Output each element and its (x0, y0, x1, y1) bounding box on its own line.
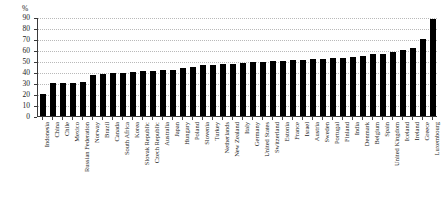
x-axis-tick-label: Italy (244, 122, 251, 134)
x-axis-tick-mark (402, 117, 403, 120)
y-axis-tick-label: 70 (23, 36, 31, 44)
x-axis-tick-label: Germany (254, 122, 261, 146)
x-axis-tick-label: Netherlands (224, 122, 231, 153)
x-axis-tick-label: Indonesia (44, 122, 51, 147)
x-axis-tick-label: Chile (64, 122, 71, 136)
bar (130, 72, 137, 116)
x-axis-tick-label: Belgium (374, 122, 381, 144)
x-axis-tick-mark (252, 117, 253, 120)
x-axis-tick-label: Iceland (404, 122, 411, 141)
bar (250, 62, 257, 116)
x-axis-tick-mark (162, 117, 163, 120)
x-axis-tick-label: Poland (194, 122, 201, 140)
bar (120, 73, 127, 116)
bar (270, 61, 277, 116)
x-axis-tick-mark (362, 117, 363, 120)
x-axis-tick-label: Estonia (284, 122, 291, 142)
x-axis-tick-label: Hungary (184, 122, 191, 145)
bar (410, 48, 417, 116)
y-axis-tick-label: 10 (23, 102, 31, 110)
x-axis-tick-mark (382, 117, 383, 120)
x-axis-tick-mark (272, 117, 273, 120)
x-axis-tick-mark (72, 117, 73, 120)
x-axis-tick-mark (342, 117, 343, 120)
bar (400, 50, 407, 116)
x-axis-tick-mark (312, 117, 313, 120)
x-axis-tick-label: Brazil (104, 122, 111, 138)
bar (230, 64, 237, 116)
x-axis-tick-mark (262, 117, 263, 120)
x-axis-tick-mark (132, 117, 133, 120)
y-axis-tick-label: 20 (23, 91, 31, 99)
x-axis-tick-mark (332, 117, 333, 120)
x-axis-tick-label: Austria (314, 122, 321, 141)
y-axis-tick-label: 50 (23, 58, 31, 66)
bar (420, 39, 427, 116)
plot-area (37, 18, 437, 117)
bar (200, 65, 207, 116)
bar (430, 19, 437, 116)
bar (240, 63, 247, 116)
bar (180, 68, 187, 116)
y-axis-tick-label: 90 (23, 14, 31, 22)
y-axis-tick-label: 0 (26, 113, 30, 121)
bar (380, 54, 387, 116)
x-axis-tick-label: Slovenia (204, 122, 211, 145)
x-axis-tick-label: Spain (384, 122, 391, 137)
x-axis-tick-mark (222, 117, 223, 120)
bar (140, 71, 147, 116)
bar (70, 83, 77, 116)
x-axis-tick-mark (82, 117, 83, 120)
x-axis-tick-mark (322, 117, 323, 120)
x-axis-tick-label: Luxembourg (434, 122, 441, 155)
x-axis-tick-label: Mexico (74, 122, 81, 142)
x-axis-tick-mark (122, 117, 123, 120)
x-axis-tick-label: China (54, 122, 61, 138)
bar (90, 75, 97, 116)
bar (390, 52, 397, 116)
x-axis-tick-mark (102, 117, 103, 120)
x-axis-tick-mark (142, 117, 143, 120)
x-axis-tick-mark (42, 117, 43, 120)
bar (100, 74, 107, 116)
x-axis-tick-mark (92, 117, 93, 120)
bars-layer (38, 18, 437, 116)
x-axis-tick-label: France (294, 122, 301, 140)
x-axis-tick-label: New Zealand (234, 122, 241, 157)
bar (350, 57, 357, 116)
x-axis-tick-label: Greece (424, 122, 431, 140)
bar (190, 67, 197, 117)
x-axis-tick-mark (422, 117, 423, 120)
bar (110, 73, 117, 116)
bar (150, 71, 157, 116)
bar (290, 60, 297, 116)
x-axis-tick-label: Israel (304, 122, 311, 136)
x-axis-tick-label: Portugal (334, 122, 341, 144)
x-axis-tick-label: India (354, 122, 361, 135)
x-axis: IndonesiaChinaChileMexicoRussian Federat… (37, 117, 437, 206)
x-axis-tick-label: Finland (344, 122, 351, 142)
x-axis-tick-mark (282, 117, 283, 120)
bar (80, 82, 87, 116)
x-axis-tick-mark (292, 117, 293, 120)
x-axis-tick-mark (52, 117, 53, 120)
x-axis-tick-label: Denmark (364, 122, 371, 146)
x-axis-tick-mark (242, 117, 243, 120)
x-axis-tick-label: Switzerland (274, 122, 281, 153)
x-axis-tick-label: United States (264, 122, 271, 157)
bar (300, 60, 307, 116)
bar (170, 70, 177, 116)
y-axis-tick-label: 40 (23, 69, 31, 77)
bar (210, 65, 217, 116)
bar (60, 83, 67, 116)
x-axis-tick-label: Canada (114, 122, 121, 142)
x-axis-tick-mark (302, 117, 303, 120)
bar (320, 59, 327, 116)
bar (310, 59, 317, 116)
x-axis-tick-mark (432, 117, 433, 120)
bar (50, 83, 57, 116)
x-axis-tick-label: Russian Federation (84, 122, 91, 172)
bar (280, 61, 287, 116)
x-axis-tick-mark (232, 117, 233, 120)
y-axis-tick-label: 30 (23, 80, 31, 88)
